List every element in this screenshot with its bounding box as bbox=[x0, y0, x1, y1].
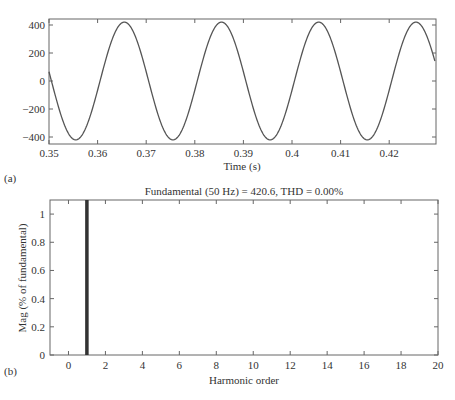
plot-b-frame bbox=[50, 200, 438, 355]
x-tick-label-b: 2 bbox=[103, 359, 109, 371]
y-tick-label-b: 1 bbox=[40, 208, 46, 220]
y-axis-ticks-b: 00.20.40.60.81 bbox=[31, 208, 438, 361]
x-tick-label-b: 20 bbox=[433, 359, 445, 371]
x-tick-label-a: 0.37 bbox=[137, 147, 157, 159]
y-tick-label-b: 0.4 bbox=[31, 293, 45, 305]
x-tick-label-a: 0.38 bbox=[185, 147, 205, 159]
x-tick-label-a: 0.41 bbox=[331, 147, 350, 159]
x-tick-label-b: 12 bbox=[285, 359, 296, 371]
y-tick-label-b: 0.2 bbox=[31, 321, 45, 333]
panel-label-b: (b) bbox=[4, 365, 17, 378]
y-tick-label-b: 0.6 bbox=[31, 264, 45, 276]
x-tick-label-b: 18 bbox=[396, 359, 408, 371]
y-tick-label-a: 200 bbox=[29, 47, 46, 59]
panel-label-a: (a) bbox=[4, 172, 17, 185]
x-tick-label-b: 16 bbox=[359, 359, 371, 371]
chart-title-b: Fundamental (50 Hz) = 420.6, THD = 0.00% bbox=[145, 185, 344, 198]
y-tick-label-a: 400 bbox=[29, 19, 46, 31]
x-axis-label-a: Time (s) bbox=[223, 160, 261, 173]
x-tick-label-b: 8 bbox=[214, 359, 220, 371]
y-tick-label-a: −200 bbox=[22, 103, 45, 115]
y-axis-ticks-a: 4002000−200−400 bbox=[22, 19, 436, 143]
panel-a: 0.350.360.370.380.390.40.410.42 4002000−… bbox=[4, 19, 436, 185]
x-tick-label-b: 10 bbox=[248, 359, 260, 371]
x-tick-label-a: 0.4 bbox=[285, 147, 299, 159]
x-axis-label-b: Harmonic order bbox=[209, 374, 279, 386]
y-tick-label-b: 0 bbox=[40, 349, 46, 361]
y-tick-label-b: 0.8 bbox=[31, 236, 45, 248]
y-tick-label-a: 0 bbox=[40, 75, 46, 87]
y-tick-label-a: −400 bbox=[22, 131, 45, 143]
x-tick-label-a: 0.36 bbox=[88, 147, 108, 159]
x-tick-label-b: 6 bbox=[177, 359, 183, 371]
x-tick-label-a: 0.35 bbox=[39, 147, 59, 159]
panel-b: Fundamental (50 Hz) = 420.6, THD = 0.00%… bbox=[4, 185, 444, 386]
x-axis-ticks-b: 02468101214161820 bbox=[66, 200, 444, 371]
x-tick-label-b: 0 bbox=[66, 359, 72, 371]
x-tick-label-a: 0.39 bbox=[234, 147, 254, 159]
y-axis-label-b: Mag (% of fundamental) bbox=[16, 223, 29, 332]
x-tick-label-a: 0.42 bbox=[380, 147, 399, 159]
x-tick-label-b: 14 bbox=[322, 359, 334, 371]
waveform-line bbox=[49, 22, 435, 140]
fundamental-bar bbox=[85, 200, 89, 355]
x-tick-label-b: 4 bbox=[140, 359, 146, 371]
figure: 0.350.360.370.380.390.40.410.42 4002000−… bbox=[0, 0, 455, 400]
